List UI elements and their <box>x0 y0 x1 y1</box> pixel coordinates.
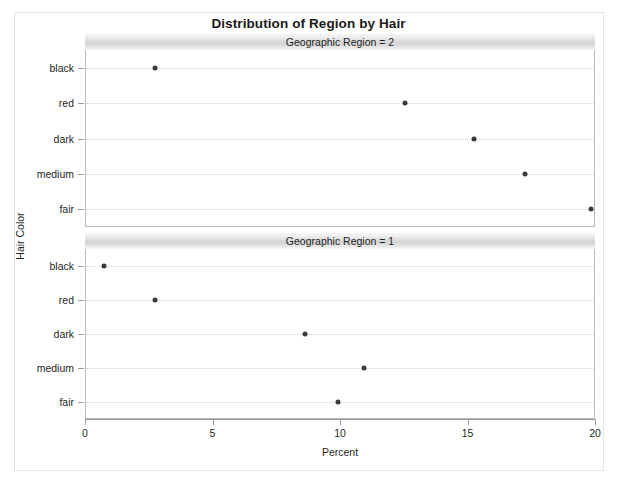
y-tick-label: fair <box>59 396 74 408</box>
x-tick-label: 0 <box>82 427 88 439</box>
gridline <box>86 174 594 175</box>
data-point-marker <box>522 171 527 176</box>
chart-root: Distribution of Region by Hair Geographi… <box>0 0 617 482</box>
x-tick-mark <box>595 419 596 425</box>
y-tick-label: red <box>59 97 74 109</box>
data-point-marker <box>152 298 157 303</box>
y-tick-mark <box>78 103 84 104</box>
data-point-marker <box>361 366 366 371</box>
y-tick-label: medium <box>37 362 74 374</box>
data-point-marker <box>336 400 341 405</box>
y-tick-mark <box>78 368 84 369</box>
x-tick-label: 15 <box>462 427 474 439</box>
y-tick-mark <box>78 266 84 267</box>
y-tick-label: fair <box>59 203 74 215</box>
y-tick-label: dark <box>54 328 74 340</box>
chart-title: Distribution of Region by Hair <box>0 16 617 31</box>
gridline <box>86 266 594 267</box>
y-tick-mark <box>78 334 84 335</box>
y-tick-mark <box>78 174 84 175</box>
gridline <box>86 334 594 335</box>
y-tick-label: medium <box>37 168 74 180</box>
y-axis-labels: blackreddarkmediumfairblackreddarkmedium… <box>0 0 85 482</box>
x-tick-label: 5 <box>210 427 216 439</box>
y-tick-label: black <box>49 260 74 272</box>
x-tick-mark <box>85 419 86 425</box>
gridline <box>86 103 594 104</box>
y-tick-mark <box>78 300 84 301</box>
data-point-marker <box>588 207 593 212</box>
data-point-marker <box>303 332 308 337</box>
y-tick-mark <box>78 402 84 403</box>
y-tick-label: dark <box>54 133 74 145</box>
data-point-marker <box>471 136 476 141</box>
x-tick-mark <box>213 419 214 425</box>
data-point-marker <box>152 65 157 70</box>
x-tick-label: 10 <box>334 427 346 439</box>
panel-header-region-1: Geographic Region = 1 <box>85 233 595 249</box>
gridline <box>86 139 594 140</box>
panel-header-region-2: Geographic Region = 2 <box>85 34 595 50</box>
y-tick-mark <box>78 209 84 210</box>
y-tick-mark <box>78 139 84 140</box>
y-tick-label: red <box>59 294 74 306</box>
x-tick-mark <box>468 419 469 425</box>
x-tick-label: 20 <box>589 427 601 439</box>
x-axis-title: Percent <box>85 446 595 458</box>
y-tick-label: black <box>49 62 74 74</box>
y-tick-mark <box>78 68 84 69</box>
gridline <box>86 68 594 69</box>
y-axis-title: Hair Color <box>14 196 26 276</box>
panel-body-region-2 <box>85 50 595 227</box>
panel-body-region-1 <box>85 249 595 419</box>
data-point-marker <box>101 264 106 269</box>
gridline <box>86 300 594 301</box>
gridline <box>86 209 594 210</box>
data-point-marker <box>402 101 407 106</box>
x-tick-mark <box>340 419 341 425</box>
gridline <box>86 368 594 369</box>
